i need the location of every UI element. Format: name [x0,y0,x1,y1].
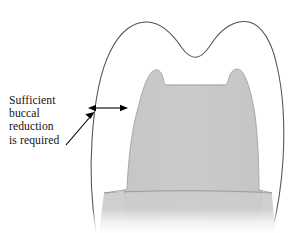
callout-line-1: Sufficient [9,94,95,107]
callout-line-3: reduction [9,120,95,133]
bottom-fade-overlay [0,178,297,233]
callout-line-4: is required [9,134,95,147]
dental-reduction-figure: Sufficient buccal reduction is required [0,0,297,233]
callout-line-2: buccal [9,107,95,120]
buccal-reduction-callout: Sufficient buccal reduction is required [9,94,95,147]
